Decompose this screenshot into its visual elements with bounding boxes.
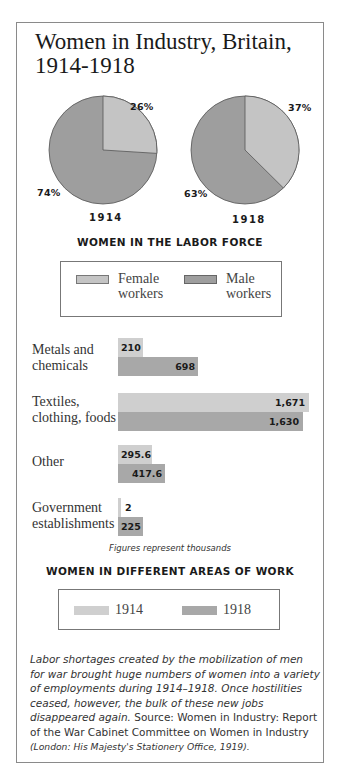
bar-other-1918: 417.6 <box>118 464 165 483</box>
bar-value: 225 <box>121 517 141 536</box>
pie-1918-female-pct: 37% <box>288 102 312 113</box>
legend-female-line2: workers <box>118 286 163 301</box>
legend-label-male: Male workers <box>226 271 271 301</box>
category-label-line: establishments <box>32 516 114 532</box>
bar-government-1914: 2 <box>118 498 121 517</box>
bar-value: 698 <box>175 357 195 376</box>
section-heading-areas-of-work: WOMEN IN DIFFERENT AREAS OF WORK <box>16 565 324 577</box>
legend-swatch-1918 <box>182 606 217 615</box>
category-label-line: Government <box>32 500 114 516</box>
category-label-line: Metals and <box>32 342 94 358</box>
bar-value: 417.6 <box>132 464 162 483</box>
bar-textiles-1914: 1,671 <box>118 393 309 412</box>
category-label-government: Government establishments <box>32 500 114 531</box>
bar-metals-1914: 210 <box>118 338 143 357</box>
legend-swatch-female <box>76 275 109 284</box>
bar-value: 2 <box>125 498 132 517</box>
category-label-other: Other <box>32 454 64 470</box>
category-label-line: chemicals <box>32 358 94 374</box>
legend-male-line2: workers <box>226 286 271 301</box>
bar-value: 295.6 <box>121 445 151 464</box>
category-label-line: clothing, foods <box>32 410 116 426</box>
pie-1914-male-pct: 74% <box>37 187 61 198</box>
pie-1918-male-pct: 63% <box>184 188 208 199</box>
legend-years: 1914 1918 <box>58 589 280 630</box>
legend-male-line1: Male <box>226 271 271 286</box>
legend-workers: Female workers Male workers <box>60 261 282 317</box>
bar-value: 1,630 <box>269 412 299 431</box>
bar-other-1914: 295.6 <box>118 445 152 464</box>
units-note: Figures represent thousands <box>16 543 324 553</box>
legend-female-line1: Female <box>118 271 163 286</box>
pie-1914-year: 1914 <box>89 212 123 223</box>
caption-source-publisher: (London: His Majesty's Stationery Office… <box>30 741 250 752</box>
category-label-line: Other <box>32 454 64 470</box>
bar-textiles-1918: 1,630 <box>118 412 303 431</box>
legend-swatch-1914 <box>74 606 109 615</box>
pie-1914-female-pct: 26% <box>130 101 154 112</box>
chart-title: Women in Industry, Britain, 1914-1918 <box>35 30 315 78</box>
category-label-textiles: Textiles, clothing, foods <box>32 394 116 425</box>
caption: Labor shortages created by the mobilizat… <box>30 652 320 755</box>
legend-swatch-male <box>184 275 217 284</box>
bar-government-1918: 225 <box>118 517 143 536</box>
section-heading-labor-force: WOMEN IN THE LABOR FORCE <box>16 236 324 248</box>
pie-1918-year: 1918 <box>232 214 266 225</box>
legend-label-1918: 1918 <box>223 602 251 617</box>
bar-value: 210 <box>121 338 141 357</box>
category-label-line: Textiles, <box>32 394 116 410</box>
category-label-metals: Metals and chemicals <box>32 342 94 373</box>
legend-label-female: Female workers <box>118 271 163 301</box>
legend-label-1914: 1914 <box>115 602 143 617</box>
bar-metals-1918: 698 <box>118 357 198 376</box>
bar-value: 1,671 <box>275 393 305 412</box>
